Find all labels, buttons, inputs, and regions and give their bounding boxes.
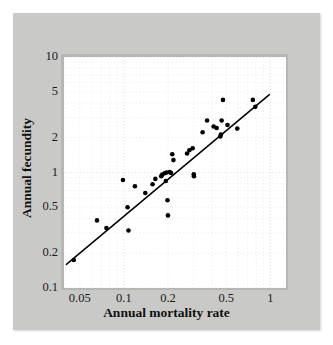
data-point <box>133 184 138 189</box>
data-point <box>251 98 256 103</box>
regression-line-layer <box>66 95 269 265</box>
scatter-plot-svg <box>64 57 286 288</box>
data-point <box>95 218 100 223</box>
x-tick-label: 0.05 <box>60 291 100 306</box>
data-point <box>150 182 155 187</box>
data-point <box>192 174 197 179</box>
y-axis-title: Annual fecundity <box>19 78 35 258</box>
data-point <box>104 226 109 231</box>
data-point <box>170 152 175 157</box>
figure-container: 0.10.20.512510 0.050.10.20.51 Annual mor… <box>0 0 333 345</box>
data-point <box>169 171 174 176</box>
data-point <box>126 228 131 233</box>
x-tick-label: 1 <box>250 291 290 306</box>
data-point <box>225 123 230 128</box>
data-point <box>214 126 219 131</box>
data-point <box>166 213 171 218</box>
data-point <box>221 98 226 103</box>
data-point <box>235 126 240 131</box>
data-point <box>200 130 205 135</box>
data-point <box>153 177 158 182</box>
grid-lines <box>64 57 286 288</box>
data-point <box>190 146 195 151</box>
data-point <box>253 105 258 110</box>
data-point <box>165 198 170 203</box>
y-tick-label: 10 <box>24 49 58 64</box>
plot-panel <box>64 57 286 288</box>
y-tick-label: 0.1 <box>24 280 58 295</box>
x-tick-label: 0.5 <box>206 291 246 306</box>
data-point <box>72 258 77 263</box>
x-tick-label: 0.1 <box>104 291 144 306</box>
data-point <box>171 158 176 163</box>
data-point <box>219 118 224 123</box>
data-point <box>164 179 169 184</box>
data-point <box>205 118 210 123</box>
data-point <box>125 205 130 210</box>
data-point <box>219 132 224 137</box>
x-axis-title: Annual mortality rate <box>0 305 333 321</box>
data-point <box>121 178 126 183</box>
data-point <box>143 191 148 196</box>
x-tick-label: 0.2 <box>148 291 188 306</box>
